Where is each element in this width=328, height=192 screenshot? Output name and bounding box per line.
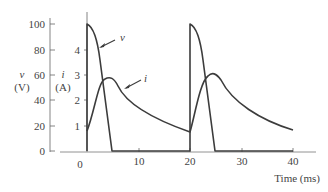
v-tick-20: 20	[34, 120, 46, 132]
v-axis-ticks	[50, 24, 55, 151]
x-tick-20: 20	[185, 155, 197, 167]
v-tick-100: 100	[29, 18, 46, 30]
i-tick-3: 3	[75, 69, 81, 81]
x-tick-40: 40	[288, 155, 300, 167]
chart: 100 80 60 40 20 0 v (V) i (A) 4 3 2 1 0 …	[0, 0, 328, 192]
i-axis-unit: (A)	[55, 81, 71, 94]
i-axis-symbol: i	[61, 68, 64, 80]
v-tick-80: 80	[34, 44, 46, 56]
v-axis-unit: (V)	[14, 81, 30, 94]
v-tick-60: 60	[34, 69, 46, 81]
v-tick-40: 40	[34, 94, 46, 106]
v-tick-0: 0	[40, 145, 46, 157]
v-axis-symbol: v	[20, 68, 25, 80]
annotation-i: i	[124, 72, 147, 89]
annotation-v: v	[99, 31, 125, 48]
i-tick-2: 2	[75, 94, 81, 106]
x-tick-10: 10	[134, 155, 146, 167]
i-tick-1: 1	[75, 120, 81, 132]
x-tick-30: 30	[237, 155, 249, 167]
annotation-v-label: v	[120, 31, 125, 43]
i-tick-4: 4	[75, 44, 81, 56]
annotation-i-label: i	[144, 72, 147, 84]
x-axis-title: Time (ms)	[274, 172, 320, 185]
x-tick-0: 0	[77, 158, 83, 170]
